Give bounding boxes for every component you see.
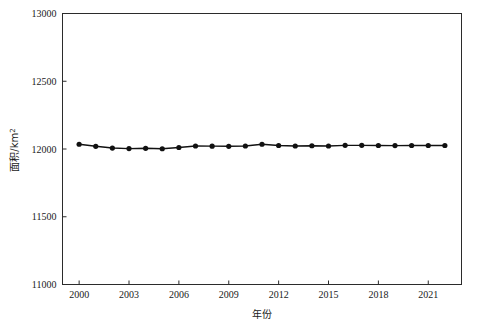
y-tick-label-11500: 11500	[32, 211, 57, 222]
x-axis-ticks	[79, 281, 428, 285]
y-axis-title: 面积/km2	[9, 128, 20, 171]
y-axis-title-group: 面积/km2	[9, 128, 20, 171]
data-point-2014	[309, 143, 314, 148]
line-chart: 1100011500120001250013000 20002003200620…	[0, 0, 480, 329]
data-point-2015	[326, 143, 331, 148]
y-tick-label-12500: 12500	[32, 76, 57, 87]
data-point-2018	[376, 143, 381, 148]
x-tick-label-2000: 2000	[69, 289, 89, 300]
y-axis-tick-labels: 1100011500120001250013000	[32, 8, 57, 290]
data-point-2006	[176, 145, 181, 150]
x-tick-label-2012: 2012	[269, 289, 289, 300]
data-point-2020	[409, 143, 414, 148]
chart-container: 1100011500120001250013000 20002003200620…	[0, 0, 480, 329]
data-point-2005	[160, 146, 165, 151]
x-tick-label-2021: 2021	[418, 289, 438, 300]
data-point-2008	[210, 144, 215, 149]
x-tick-label-2009: 2009	[219, 289, 239, 300]
data-point-2004	[143, 146, 148, 151]
data-point-2016	[343, 143, 348, 148]
data-point-2000	[77, 142, 82, 147]
x-tick-label-2015: 2015	[319, 289, 339, 300]
series-markers	[77, 142, 448, 152]
data-point-2003	[126, 146, 131, 151]
y-tick-label-11000: 11000	[32, 279, 57, 290]
x-tick-label-2003: 2003	[119, 289, 139, 300]
x-axis-title: 年份	[252, 308, 272, 320]
y-axis-ticks	[63, 14, 67, 285]
x-tick-label-2018: 2018	[368, 289, 388, 300]
data-point-2010	[243, 143, 248, 148]
data-point-2001	[93, 144, 98, 149]
data-point-2002	[110, 145, 115, 150]
data-point-2012	[276, 143, 281, 148]
data-point-2007	[193, 143, 198, 148]
data-point-2019	[392, 143, 397, 148]
x-tick-label-2006: 2006	[169, 289, 189, 300]
x-axis-tick-labels: 20002003200620092012201520182021	[69, 289, 438, 300]
data-point-2013	[293, 143, 298, 148]
data-point-2022	[442, 143, 447, 148]
y-tick-label-12000: 12000	[32, 144, 57, 155]
data-point-2021	[426, 143, 431, 148]
y-tick-label-13000: 13000	[32, 8, 57, 19]
data-point-2011	[259, 142, 264, 147]
data-point-2009	[226, 144, 231, 149]
data-point-2017	[359, 143, 364, 148]
